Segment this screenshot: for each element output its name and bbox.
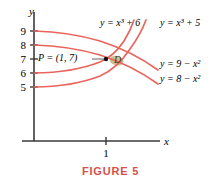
x-tick-label-1: 1 bbox=[100, 148, 112, 159]
figure-container: 9 8 7 6 5 1 y x P = (1, 7) D y = x³ + 6 … bbox=[0, 0, 221, 186]
curve-label-cubic-6: y = x³ + 6 bbox=[100, 18, 140, 28]
figure-caption: FIGURE 5 bbox=[0, 166, 221, 177]
y-tick-label-6: 6 bbox=[14, 68, 26, 79]
point-p-marker bbox=[104, 57, 108, 61]
region-d-label: D bbox=[114, 55, 121, 65]
curve-label-cubic-5: y = x³ + 5 bbox=[160, 18, 200, 28]
x-axis-label: x bbox=[164, 136, 169, 147]
y-tick-label-8: 8 bbox=[14, 40, 26, 51]
y-axis-label: y bbox=[29, 6, 34, 17]
curve-label-parabola-9: y = 9 − x² bbox=[160, 59, 200, 69]
point-p-label: P = (1, 7) bbox=[38, 53, 77, 63]
y-tick-label-7: 7 bbox=[14, 54, 26, 65]
y-tick-label-9: 9 bbox=[14, 26, 26, 37]
curve-label-parabola-8: y = 8 − x² bbox=[160, 74, 200, 84]
y-tick-label-5: 5 bbox=[14, 82, 26, 93]
